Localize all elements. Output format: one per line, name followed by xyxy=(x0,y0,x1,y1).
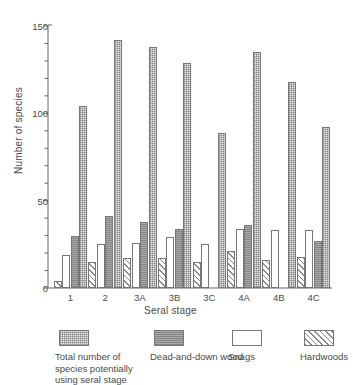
legend-swatch xyxy=(304,330,334,346)
bar xyxy=(236,229,244,288)
bar xyxy=(97,244,105,288)
bar xyxy=(305,230,313,288)
bar xyxy=(88,262,96,288)
bar xyxy=(123,258,131,288)
bar xyxy=(193,262,201,288)
bar xyxy=(105,216,113,288)
bar xyxy=(54,281,62,288)
bar xyxy=(175,229,183,288)
legend-swatch xyxy=(232,330,262,346)
bar xyxy=(149,47,157,288)
legend-swatch xyxy=(59,330,89,346)
bar xyxy=(183,63,191,288)
chart-legend: Total number of species potentially usin… xyxy=(0,330,341,385)
bar xyxy=(79,106,87,288)
bar xyxy=(114,40,122,288)
legend-item: Total number of species potentially usin… xyxy=(55,330,150,385)
bar xyxy=(62,255,70,288)
bar xyxy=(132,243,140,288)
legend-item: Hardwoods xyxy=(300,330,353,363)
bar xyxy=(244,225,252,288)
bar xyxy=(166,237,174,288)
bar xyxy=(71,236,79,288)
legend-swatch xyxy=(154,330,184,346)
legend-label: Hardwoods xyxy=(300,351,353,363)
bar xyxy=(288,82,296,288)
bar xyxy=(253,52,261,288)
bar xyxy=(140,222,148,288)
bar xyxy=(314,241,322,288)
bar xyxy=(271,230,279,288)
bar xyxy=(262,260,270,288)
bar xyxy=(227,251,235,288)
bar xyxy=(218,133,226,288)
bar xyxy=(201,244,209,288)
bar xyxy=(158,258,166,288)
legend-label: Total number of species potentially usin… xyxy=(55,351,150,385)
bar xyxy=(322,127,330,288)
bar xyxy=(297,257,305,288)
